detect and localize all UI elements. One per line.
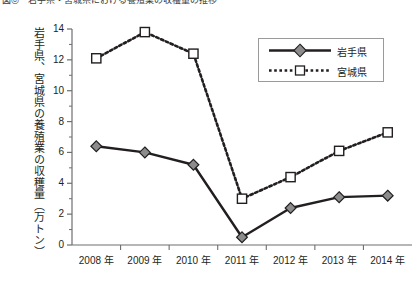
x-tick-label: 2013 年 [313, 252, 365, 267]
y-tick-label: 12 [42, 54, 64, 65]
data-point [285, 203, 296, 214]
data-point [237, 194, 246, 203]
chart-legend: 岩手県 宮城県 [258, 38, 384, 82]
x-tick-label: 2011 年 [216, 252, 268, 267]
y-tick-label: 4 [42, 177, 64, 188]
x-tick-label: 2009 年 [119, 252, 171, 267]
y-tick-label: 10 [42, 85, 64, 96]
y-tick-label: 8 [42, 116, 64, 127]
y-axis-ticks [67, 29, 72, 245]
data-point [286, 173, 295, 182]
data-point [334, 192, 345, 203]
data-point [92, 54, 101, 63]
data-point [140, 27, 149, 36]
legend-label-miyagi: 宮城県 [337, 64, 367, 79]
legend-label-iwate: 岩手県 [337, 44, 367, 59]
data-point [382, 190, 393, 201]
data-point [91, 141, 102, 152]
data-point [335, 146, 344, 155]
series-iwate [91, 141, 393, 243]
y-tick-label: 0 [42, 239, 64, 250]
x-tick-label: 2012 年 [265, 252, 317, 267]
legend-swatch-solid-diamond-icon [267, 40, 333, 61]
x-axis-ticks [121, 245, 364, 250]
legend-item-iwate: 岩手県 [259, 40, 383, 61]
y-tick-label: 6 [42, 146, 64, 157]
data-point [189, 49, 198, 58]
x-tick-label: 2008 年 [70, 252, 122, 267]
y-tick-label: 2 [42, 208, 64, 219]
chart-figure: 図◎ 岩手県・宮城県における養殖業の収穫量の推移 岩手県、宮城県の養殖業の収穫量… [0, 0, 420, 284]
x-tick-label: 2010 年 [167, 252, 219, 267]
y-tick-label: 14 [42, 23, 64, 34]
legend-item-miyagi: 宮城県 [259, 60, 383, 81]
x-tick-label: 2014 年 [362, 252, 414, 267]
data-point [139, 147, 150, 158]
data-point [383, 128, 392, 137]
legend-swatch-dotted-square-icon [267, 60, 333, 81]
